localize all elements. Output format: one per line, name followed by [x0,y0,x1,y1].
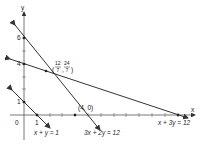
svg-text:): ) [71,66,73,74]
point-4-0-label: (4, 0) [78,104,93,112]
x-axis-label: x [191,106,195,113]
svg-text:,: , [62,66,64,73]
point-1-0 [36,114,39,117]
svg-text:7: 7 [57,67,60,73]
svg-text:12: 12 [55,60,61,66]
svg-text:(: ( [52,66,55,74]
intersection-point [45,70,48,73]
y-tick-6: 6 [17,34,21,41]
point-0-6 [23,37,26,40]
line2-label: 3x + 2y = 12 [84,129,120,137]
point-0-1 [23,101,26,104]
point-4-0 [74,114,77,117]
point-0-4 [23,63,26,66]
line1-label: x + y = 1 [33,129,59,137]
linear-inequalities-graph: x y 0 1 4 6 1 ( 12 [0,0,209,150]
svg-text:24: 24 [64,60,70,66]
y-axis-label: y [21,4,25,12]
line3-label: x + 3y = 12 [157,119,191,127]
x-tick-1: 1 [35,119,39,126]
svg-text:7: 7 [66,67,69,73]
point-12-0 [177,114,180,117]
origin-label: 0 [15,119,19,126]
line-3x-plus-2y-eq-12 [15,25,100,130]
line-x-plus-3y-eq-12 [10,59,188,118]
intersection-label: ( 12 7 , 24 7 ) [52,60,73,74]
